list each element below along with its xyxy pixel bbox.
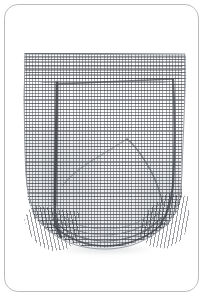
garment-outline — [23, 53, 187, 251]
garment-photo — [23, 53, 187, 251]
screenshot-root — [0, 0, 203, 296]
product-card-frame — [4, 4, 199, 292]
